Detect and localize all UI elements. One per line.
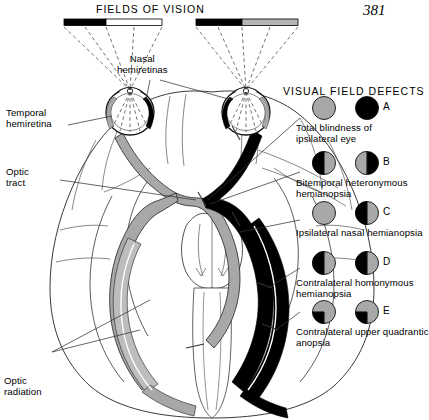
defect-e-left-eye <box>313 301 336 324</box>
defect-letter-a: A <box>383 101 390 113</box>
label-temporal-hemiretina: Temporal hemiretina <box>6 107 52 130</box>
defect-a-left-eye <box>313 97 336 120</box>
defect-letter-d: D <box>383 256 390 268</box>
defect-letter-e: E <box>383 305 390 317</box>
defect-c-right-eye <box>356 202 379 225</box>
label-nasal-hemiretinas: Nasal hemiretinas <box>117 53 168 76</box>
fields-of-vision-header: FIELDS OF VISION <box>96 3 205 15</box>
defect-letter-c: C <box>383 206 390 218</box>
defect-caption-e: Contralateral upper quadrantic anopsia <box>296 326 429 349</box>
visual-field-defects-header: VISUAL FIELD DEFECTS <box>283 85 425 97</box>
defect-d-right-eye <box>356 252 379 275</box>
defect-e-right-eye <box>356 301 379 324</box>
defect-c-left-eye <box>313 202 336 225</box>
defect-caption-b: Bitemporal heteronymous hemianopsia <box>296 177 408 200</box>
defect-a-right-eye <box>356 97 379 120</box>
defect-caption-d: Contralateral homonymous hemianopsia <box>296 277 414 300</box>
defect-d-left-eye <box>313 252 336 275</box>
label-optic-tract: Optic tract <box>6 166 29 189</box>
defect-b-left-eye <box>313 152 336 175</box>
label-optic-radiation: Optic radiation <box>4 375 42 398</box>
defect-caption-a: Total blindness of ipsilateral eye <box>296 122 372 145</box>
defect-caption-c: Ipsilateral nasal hemianopsia <box>296 227 423 238</box>
defect-b-right-eye <box>356 152 379 175</box>
defect-letter-b: B <box>383 156 390 168</box>
page-number: 381 <box>363 2 386 20</box>
